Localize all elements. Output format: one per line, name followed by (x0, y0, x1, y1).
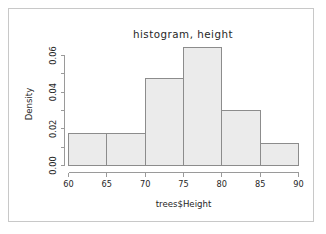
y-tick-label-0.06: 0.06 (48, 46, 58, 64)
x-tick-label-60: 60 (63, 179, 73, 189)
x-tick-label-75: 75 (178, 179, 188, 189)
y-tick-label-0.00: 0.00 (48, 156, 58, 174)
page-title: histogram, height (133, 28, 233, 40)
y-axis-tick-labels: 0.06 0.04 0.02 0.00 (48, 46, 58, 174)
hist-bar-80-85 (222, 110, 260, 165)
y-axis-title: Density (24, 88, 34, 121)
x-axis-tick-labels: 60 65 70 75 80 85 90 (63, 179, 303, 189)
hist-bar-75-80 (184, 47, 222, 165)
x-tick-label-90: 90 (293, 179, 303, 189)
hist-bar-85-90 (260, 144, 298, 166)
x-axis-title: trees$Height (156, 199, 212, 209)
x-tick-label-65: 65 (102, 179, 112, 189)
x-tick-label-80: 80 (217, 179, 227, 189)
histogram-figure: histogram, height 0.06 0.04 0.02 0.00 De… (0, 0, 326, 234)
x-tick-label-85: 85 (255, 179, 265, 189)
y-tick-label-0.04: 0.04 (48, 83, 58, 101)
hist-bar-60-65 (69, 134, 107, 166)
x-tick-label-70: 70 (140, 179, 150, 189)
y-axis-ticks (61, 56, 65, 166)
hist-bar-65-70 (107, 134, 145, 166)
plot-canvas: histogram, height 0.06 0.04 0.02 0.00 De… (0, 0, 326, 234)
hist-bar-70-75 (145, 79, 183, 166)
y-tick-label-0.02: 0.02 (48, 120, 58, 138)
histogram-bars (69, 47, 299, 165)
x-axis-ticks (69, 173, 299, 177)
